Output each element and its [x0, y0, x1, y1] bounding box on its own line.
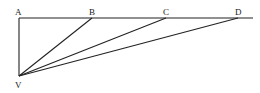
- point-label-v: V: [15, 80, 22, 90]
- segment-v-c: [19, 18, 166, 76]
- point-label-d: D: [235, 7, 242, 17]
- segment-v-b: [19, 18, 92, 76]
- diagram-canvas: ABCDV: [0, 0, 260, 93]
- point-label-c: C: [163, 7, 169, 17]
- point-label-b: B: [89, 7, 95, 17]
- geometry-diagram: ABCDV: [0, 0, 260, 93]
- point-label-a: A: [15, 7, 22, 17]
- segment-v-d: [19, 18, 238, 76]
